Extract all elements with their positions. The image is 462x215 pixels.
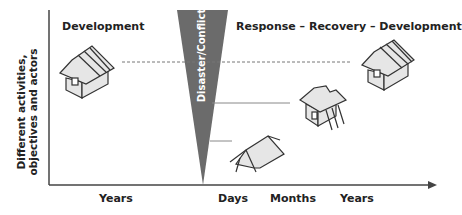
damaged-house-icon xyxy=(300,86,346,130)
left-title: Development xyxy=(62,20,144,33)
tent-icon xyxy=(230,136,284,172)
wedge-label: Disaster/Conflict xyxy=(196,1,207,111)
x-label-months: Months xyxy=(270,192,316,205)
x-label-years-after: Years xyxy=(340,192,374,205)
x-label-years-before: Years xyxy=(99,192,133,205)
x-label-days: Days xyxy=(218,192,248,205)
y-axis-label: Different activities, objectives and act… xyxy=(15,37,39,187)
y-axis-label-line1: Different activities, xyxy=(15,37,27,187)
house-icon xyxy=(60,46,114,98)
y-axis-label-line2: objectives and actors xyxy=(27,37,39,187)
x-axis-arrow-icon xyxy=(428,181,437,189)
rebuilt-house-icon xyxy=(362,40,414,90)
right-title: Response – Recovery – Development xyxy=(236,20,462,33)
